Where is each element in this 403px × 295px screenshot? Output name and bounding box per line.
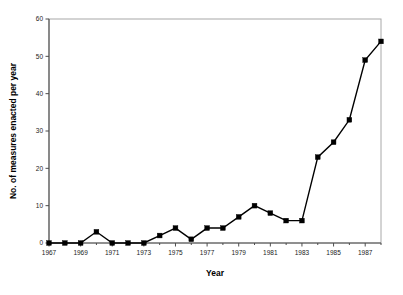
- y-tick-label: 50: [36, 53, 44, 60]
- data-point-marker: [126, 241, 131, 246]
- plot-frame: [49, 19, 381, 243]
- data-point-marker: [189, 237, 194, 242]
- y-tick-label: 30: [36, 127, 44, 134]
- x-tick-label: 1987: [358, 249, 373, 256]
- x-tick-label: 1971: [105, 249, 120, 256]
- data-point-marker: [94, 229, 99, 234]
- data-point-marker: [62, 241, 67, 246]
- data-point-marker: [173, 226, 178, 231]
- data-point-marker: [78, 241, 83, 246]
- data-point-marker: [141, 241, 146, 246]
- x-tick-label: 1973: [137, 249, 152, 256]
- x-tick-label: 1981: [263, 249, 278, 256]
- data-point-marker: [252, 203, 257, 208]
- data-point-marker: [284, 218, 289, 223]
- x-tick-label: 1969: [73, 249, 88, 256]
- x-tick-label: 1979: [231, 249, 246, 256]
- x-tick-label: 1977: [200, 249, 215, 256]
- chart-figure: 0102030405060196719691971197319751977197…: [0, 0, 403, 295]
- data-point-marker: [300, 218, 305, 223]
- y-tick-label: 0: [39, 239, 43, 246]
- y-tick-label: 60: [36, 15, 44, 22]
- data-point-marker: [268, 211, 273, 216]
- data-point-marker: [236, 214, 241, 219]
- y-tick-label: 10: [36, 202, 44, 209]
- data-point-marker: [363, 58, 368, 63]
- y-axis-title: No. of measures enacted per year: [8, 62, 18, 199]
- x-tick-label: 1975: [168, 249, 183, 256]
- data-point-marker: [331, 140, 336, 145]
- x-tick-label: 1967: [42, 249, 57, 256]
- x-tick-label: 1985: [326, 249, 341, 256]
- y-tick-label: 40: [36, 90, 44, 97]
- data-point-marker: [205, 226, 210, 231]
- x-tick-label: 1983: [295, 249, 310, 256]
- data-point-marker: [110, 241, 115, 246]
- x-axis-title: Year: [206, 268, 225, 278]
- data-point-marker: [347, 117, 352, 122]
- data-point-marker: [47, 241, 52, 246]
- line-chart: 0102030405060196719691971197319751977197…: [0, 0, 403, 295]
- data-point-marker: [157, 233, 162, 238]
- data-point-marker: [315, 155, 320, 160]
- y-tick-label: 20: [36, 165, 44, 172]
- data-point-marker: [221, 226, 226, 231]
- data-point-marker: [379, 39, 384, 44]
